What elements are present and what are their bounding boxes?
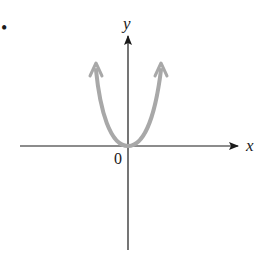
x-axis-label: x <box>246 136 254 156</box>
y-axis-label: y <box>123 14 131 34</box>
origin-label: 0 <box>114 150 122 168</box>
coordinate-plane <box>0 0 271 257</box>
